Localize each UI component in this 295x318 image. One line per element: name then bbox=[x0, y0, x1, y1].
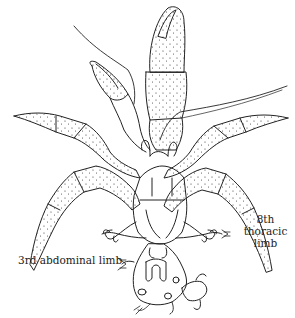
label-8th-thoracic-line1: 8th thoracic bbox=[236, 213, 295, 237]
right-small-leg bbox=[184, 222, 215, 239]
label-3rd-abdominal-limb: 3rd abdominal limb bbox=[18, 254, 122, 266]
hermit-crab-drawing bbox=[0, 0, 295, 318]
tail-fan bbox=[182, 281, 207, 301]
hermit-crab-figure bbox=[0, 0, 295, 318]
label-8th-thoracic-line2: limb bbox=[236, 237, 295, 249]
label-8th-thoracic-limb: 8th thoracic limb bbox=[236, 213, 295, 249]
eighth-thoracic-limb bbox=[176, 233, 222, 239]
large-claw-carpus bbox=[146, 72, 187, 120]
small-claw bbox=[90, 61, 128, 100]
